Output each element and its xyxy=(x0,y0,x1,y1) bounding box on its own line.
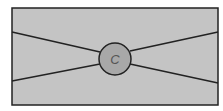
center-node-label: C xyxy=(110,52,120,67)
diagram-canvas: C xyxy=(0,0,223,111)
